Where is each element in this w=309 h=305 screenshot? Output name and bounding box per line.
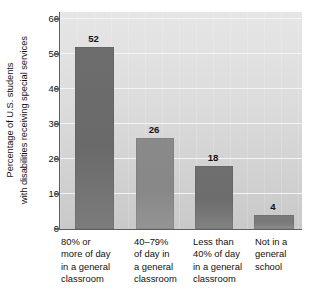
x-axis-line [59, 229, 302, 230]
bar-value-label-4: 4 [253, 201, 293, 212]
bar-chart-figure: Percentage of U.S. students with disabil… [0, 0, 309, 305]
y-axis-title: Percentage of U.S. students with disabil… [0, 0, 33, 240]
bar-2[interactable] [136, 138, 174, 229]
x-category-label-2: 40–79% of day in a general classroom [134, 236, 200, 286]
x-category-label-4: Not in a general school [255, 236, 307, 273]
bar-1[interactable] [75, 47, 114, 229]
bar-4[interactable] [254, 215, 294, 229]
gridline-60 [60, 18, 302, 19]
bar-3[interactable] [195, 166, 233, 229]
plot-area [59, 12, 302, 229]
bar-value-label-3: 18 [194, 152, 232, 163]
x-category-label-1: 80% or more of day in a general classroo… [61, 236, 131, 286]
bar-value-label-2: 26 [135, 124, 173, 135]
y-axis-title-line-1: Percentage of U.S. students [3, 36, 17, 204]
y-axis-title-line-2: with disabilities receiving special serv… [17, 36, 31, 204]
bar-value-label-1: 52 [74, 33, 113, 44]
